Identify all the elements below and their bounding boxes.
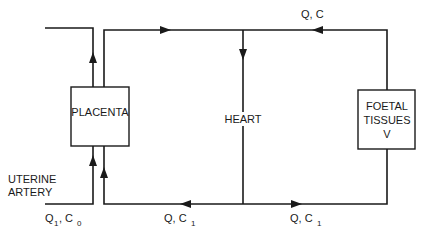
circulation-diagram: PLACENTA FOETAL TISSUES V HEART UTERINE … <box>0 0 424 234</box>
artery-label: ARTERY <box>8 186 53 198</box>
bottom-right-flow-label: Q, C 1 <box>290 212 322 228</box>
umbilical-vein-line <box>104 30 387 90</box>
volume-label: V <box>383 128 391 140</box>
svg-text:0: 0 <box>77 219 82 228</box>
arrow-up-icon <box>100 167 108 178</box>
umbilical-artery-line <box>104 146 387 204</box>
bottom-left-flow-label: Q, C 1 <box>164 212 196 228</box>
heart-label: HEART <box>224 113 261 125</box>
top-flow-label: Q, C <box>301 8 324 20</box>
placenta-label: PLACENTA <box>71 106 129 118</box>
arrow-up-icon <box>89 52 97 63</box>
maternal-outflow-line <box>45 28 93 87</box>
foetal-label: FOETAL <box>366 100 408 112</box>
arrow-right-icon <box>160 26 171 34</box>
svg-text:1: 1 <box>317 219 322 228</box>
svg-text:Q: Q <box>45 212 54 224</box>
svg-text:Q, C: Q, C <box>290 212 313 224</box>
arrow-left-icon <box>312 26 323 34</box>
arrow-right-icon <box>291 200 302 208</box>
arrow-left-icon <box>180 200 191 208</box>
uterine-label: UTERINE <box>8 173 56 185</box>
tissues-label: TISSUES <box>363 114 410 126</box>
uterine-flow-label: Q 1 , C 0 <box>45 212 82 228</box>
svg-text:1: 1 <box>191 219 196 228</box>
arrow-down-icon <box>239 49 247 60</box>
arrow-up-icon <box>89 155 97 166</box>
svg-text:, C: , C <box>59 212 73 224</box>
svg-text:Q, C: Q, C <box>164 212 187 224</box>
